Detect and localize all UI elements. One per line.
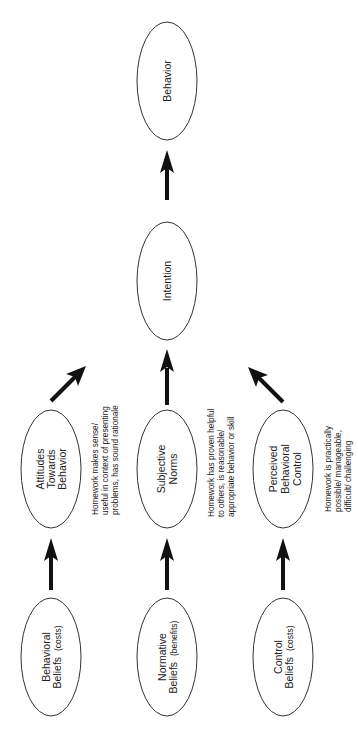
node-behavioral-beliefs: Behavioral Beliefs (costs) bbox=[21, 598, 81, 716]
node-behavioral-beliefs-line-2: Beliefs bbox=[51, 657, 63, 689]
note-attitudes-line-1: Homework makes sense/ bbox=[91, 422, 100, 515]
arrow-normative-beliefs-to-subjective-norms bbox=[160, 538, 174, 590]
note-subjective-norms-line-1: Homework has proven helpful bbox=[207, 409, 216, 517]
node-normative-beliefs-line-2: Beliefs bbox=[167, 662, 179, 694]
arrow-attitudes-to-intention bbox=[51, 366, 86, 401]
node-subjective-norms: Subjective Norms bbox=[137, 410, 197, 528]
node-behavior-label: Behavior bbox=[161, 60, 173, 102]
node-control-beliefs: Control Beliefs (costs) bbox=[253, 598, 313, 716]
node-normative-beliefs: Normative Beliefs (benefits) bbox=[137, 598, 197, 716]
node-subjective-norms-line-1: Subjective bbox=[155, 445, 167, 494]
node-pbc-line-1: Perceived bbox=[267, 446, 279, 493]
arrow-intention-to-behavior bbox=[160, 150, 174, 200]
note-pbc-line-2: possible/ manageable, bbox=[334, 430, 343, 512]
note-pbc-line-1: Homework is practically bbox=[324, 425, 333, 512]
node-intention: Intention bbox=[137, 222, 197, 340]
node-control-beliefs-line-2-wrap: Beliefs (costs) bbox=[283, 625, 295, 688]
node-subjective-norms-line-2: Norms bbox=[167, 454, 179, 485]
note-subjective-norms-line-3: appropriate behavior or skill bbox=[227, 416, 236, 517]
node-behavioral-beliefs-qualifier: (costs) bbox=[53, 625, 63, 651]
node-control-beliefs-qualifier: (costs) bbox=[285, 625, 295, 651]
note-pbc-line-3: difficult/ challenging bbox=[344, 440, 353, 512]
node-normative-beliefs-qualifier: (benefits) bbox=[169, 620, 179, 656]
node-behavior: Behavior bbox=[137, 22, 197, 140]
node-attitudes-line-3: Behavior bbox=[56, 448, 68, 490]
arrow-subjective-norms-to-intention bbox=[160, 349, 174, 405]
note-subjective-norms-line-2: to others, is reasonable/ bbox=[217, 429, 226, 517]
node-pbc: Perceived Behavioral Control bbox=[253, 410, 313, 528]
node-pbc-line-3: Control bbox=[291, 452, 303, 486]
arrow-pbc-to-intention bbox=[248, 367, 283, 402]
arrow-behavioral-beliefs-to-attitudes bbox=[44, 538, 58, 590]
note-attitudes-line-2: useful in context of presenting bbox=[101, 406, 110, 515]
diagram-canvas: Behavior Intention Attitudes Towards Beh… bbox=[0, 0, 358, 756]
node-behavioral-beliefs-line-2-wrap: Beliefs (costs) bbox=[51, 625, 63, 688]
node-pbc-line-2: Behavioral bbox=[279, 444, 291, 494]
node-normative-beliefs-line-2-wrap: Beliefs (benefits) bbox=[167, 620, 179, 693]
note-subjective-norms: Homework has proven helpful to others, i… bbox=[207, 409, 236, 517]
note-pbc: Homework is practically possible/ manage… bbox=[324, 425, 353, 512]
node-attitudes: Attitudes Towards Behavior bbox=[21, 410, 81, 528]
node-control-beliefs-line-2: Beliefs bbox=[283, 657, 295, 689]
note-attitudes: Homework makes sense/ useful in context … bbox=[91, 405, 120, 515]
node-intention-label: Intention bbox=[161, 261, 173, 301]
arrow-control-beliefs-to-pbc bbox=[276, 538, 290, 590]
note-attitudes-line-3: problems, has sound rationale bbox=[111, 405, 120, 515]
